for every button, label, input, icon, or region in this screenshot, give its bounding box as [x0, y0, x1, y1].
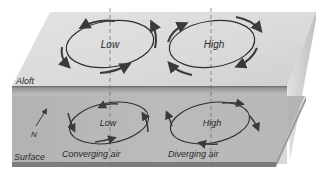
pressure-systems-diagram: Low High Aloft Low High N Surface Conver… [0, 0, 321, 178]
aloft-top-face [12, 12, 316, 86]
converging-air-caption: Converging air [62, 149, 122, 159]
surface-slab-edge [12, 162, 276, 167]
surface-label: Surface [14, 152, 45, 162]
aloft-low-label: Low [101, 39, 120, 50]
surface-high-label: High [203, 118, 222, 128]
surface-low-label: Low [100, 118, 117, 128]
north-label: N [31, 130, 37, 139]
aloft-label: Aloft [15, 76, 35, 86]
diverging-air-caption: Diverging air [168, 149, 220, 159]
aloft-high-label: High [204, 39, 225, 50]
